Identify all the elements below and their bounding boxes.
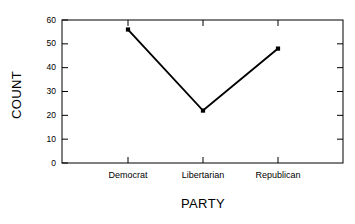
- x-tick-label-republican: Republican: [238, 170, 318, 180]
- y-tick-label-0: 0: [30, 159, 56, 168]
- data-point-libertarian: [201, 109, 205, 113]
- data-point-democrat: [126, 27, 130, 31]
- y-tick-label-60: 60: [30, 16, 56, 25]
- x-axis-ticks: [128, 157, 278, 163]
- y-axis-ticks: [62, 20, 68, 163]
- y-tick-label-50: 50: [30, 39, 56, 48]
- y-axis-ticks-right: [337, 44, 343, 139]
- x-axis-title: PARTY: [62, 196, 344, 211]
- plot-frame: [62, 20, 343, 163]
- data-point-markers: [126, 27, 280, 112]
- x-tick-label-democrat: Democrat: [88, 170, 168, 180]
- x-tick-label-libertarian: Libertarian: [163, 170, 243, 180]
- y-tick-label-20: 20: [30, 111, 56, 120]
- data-point-republican: [276, 47, 280, 51]
- y-axis-title: COUNT: [9, 20, 29, 170]
- line-chart: 60 50 40 30 20 10 0 Democrat Libertarian…: [0, 0, 355, 224]
- x-axis-ticks-top: [128, 20, 278, 26]
- y-tick-label-30: 30: [30, 87, 56, 96]
- y-tick-label-40: 40: [30, 63, 56, 72]
- data-line-count: [128, 30, 278, 111]
- y-tick-label-10: 10: [30, 135, 56, 144]
